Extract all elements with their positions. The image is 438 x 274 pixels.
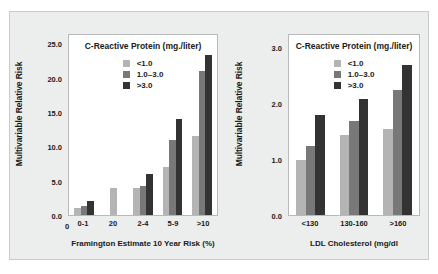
bar [163, 167, 170, 215]
bar-group [187, 35, 217, 215]
chart-panel-framingham: Multivariable Relative Risk 0.05.010.015… [10, 12, 226, 259]
y-axis-label-left: Multivariable Relative Risk [8, 12, 30, 216]
bar [176, 119, 183, 215]
bar [383, 129, 393, 215]
bar [192, 136, 199, 215]
bar-group [332, 35, 375, 215]
bar-group [99, 35, 129, 215]
y-axis-tick-label: 5.0 [52, 177, 62, 186]
x-axis-tick-label: >160 [390, 219, 407, 228]
bar [296, 160, 306, 215]
x-axis-label-right: LDL Cholesterol (mg/dl [288, 239, 420, 248]
x-axis-tick-label: 2-4 [138, 219, 149, 228]
y-axis-tick-label: 10.0 [47, 143, 62, 152]
y-axis-tick-label: 2.0 [272, 100, 282, 109]
x-axis-label-left: Framington Estimate 10 Year Risk (%) [68, 239, 218, 248]
x-axis-tick-label: <130 [302, 219, 319, 228]
y-axis-tick-label: 15.0 [47, 108, 62, 117]
chart-panel-ldl: Multivariable Relative Risk 0.01.02.03.0… [226, 12, 430, 259]
x-axis-tick-label: >10 [197, 219, 210, 228]
y-axis-tick-label: 3.0 [272, 44, 282, 53]
bars-right [289, 35, 419, 215]
bar-group [289, 35, 332, 215]
figure-container: Multivariable Relative Risk 0.05.010.015… [9, 11, 429, 260]
bar [146, 174, 153, 215]
bar [315, 115, 325, 215]
plot-area-right: C-Reactive Protein (mg./liter) <1.01.0–3… [288, 34, 420, 216]
bar [349, 121, 359, 215]
bar [340, 135, 350, 215]
y-axis-label-right: Multivariable Relative Risk [228, 12, 250, 216]
bar-group [376, 35, 419, 215]
bar [81, 206, 88, 215]
bar [140, 186, 147, 215]
bar [74, 208, 81, 215]
y-axis-tick-label: 0.0 [52, 212, 62, 221]
x-axis-tick-label: 20 [109, 219, 117, 228]
bar [393, 90, 403, 215]
y-axis-ticks-right: 0.01.02.03.0 [254, 34, 284, 216]
bar [87, 201, 94, 215]
bar [169, 140, 176, 215]
bar [359, 99, 369, 215]
x-axis-tick-label: 130-160 [340, 219, 368, 228]
bar [110, 188, 117, 215]
bar [306, 146, 316, 215]
bar [133, 188, 140, 215]
bar-group [69, 35, 99, 215]
bar [199, 71, 206, 215]
bar-group [158, 35, 188, 215]
bar [402, 65, 412, 215]
x-axis-ticks-left: 0-1202-45-9>10 [68, 219, 218, 231]
bars-left [69, 35, 217, 215]
x-axis-ticks-right: <130130-160>160 [288, 219, 420, 231]
y-axis-ticks-left: 0.05.010.015.020.025.0 [34, 34, 64, 216]
bar-group [128, 35, 158, 215]
y-axis-tick-label: 25.0 [47, 40, 62, 49]
bar [205, 55, 212, 215]
x-axis-tick-label: 5-9 [168, 219, 179, 228]
plot-area-left: C-Reactive Protein (mg./liter) <1.01.0–3… [68, 34, 218, 216]
x-axis-tick-label: 0-1 [78, 219, 89, 228]
y-axis-tick-label: 20.0 [47, 74, 62, 83]
y-axis-tick-label: 0.0 [272, 212, 282, 221]
y-axis-tick-label: 1.0 [272, 156, 282, 165]
